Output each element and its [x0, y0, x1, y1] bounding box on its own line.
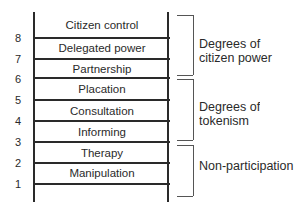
group-line1: Degrees of [199, 37, 272, 51]
group-line2: citizen power [199, 51, 272, 65]
group-line2: tokenism [199, 114, 260, 125]
rung-label: Consultation [36, 104, 168, 118]
rung-label: Placation [36, 82, 168, 96]
level-number: 4 [12, 115, 24, 127]
rung-5 [34, 99, 170, 101]
rung-8 [34, 37, 170, 39]
rung-label: Partnership [36, 62, 168, 76]
rung-label: Informing [36, 125, 168, 139]
ladder-left-rail [33, 12, 35, 202]
rung-6 [34, 77, 170, 79]
rung-7 [34, 58, 170, 60]
level-number: 1 [12, 178, 24, 190]
rung-4 [34, 120, 170, 122]
level-number: 2 [12, 157, 24, 169]
group-label-non-participation: Non-participation [199, 159, 294, 173]
rung-label: Therapy [36, 146, 168, 160]
rung-label: Citizen control [36, 18, 168, 32]
level-number: 6 [12, 73, 24, 85]
level-number: 8 [12, 32, 24, 44]
group-label-tokenism: Degrees of tokenism [199, 100, 260, 125]
group-label-citizen-power: Degrees of citizen power [199, 37, 272, 65]
level-number: 3 [12, 136, 24, 148]
rung-label: Delegated power [36, 41, 168, 55]
rung-label: Manipulation [36, 166, 168, 180]
group-line1: Degrees of [199, 100, 260, 114]
rung-3 [34, 141, 170, 143]
rung-1 [34, 183, 170, 185]
group-line1: Non-participation [199, 159, 294, 173]
level-number: 5 [12, 94, 24, 106]
rung-2 [34, 162, 170, 164]
level-number: 7 [12, 53, 24, 65]
